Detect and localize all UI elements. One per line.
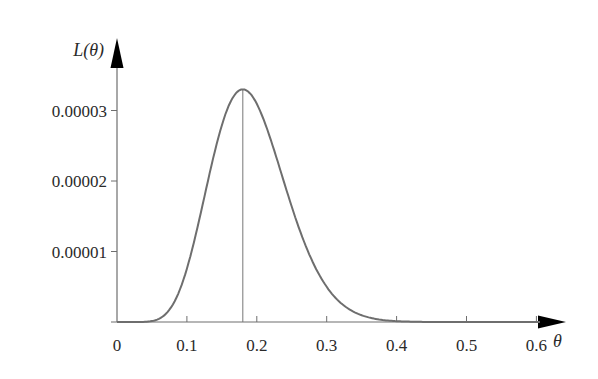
x-axis-title: θ	[553, 331, 562, 351]
y-axis-title: L(θ)	[72, 40, 104, 61]
y-tick-label: 0.00001	[52, 243, 107, 262]
x-tick-label: 0.1	[176, 336, 197, 355]
y-tick-label: 0.00003	[52, 102, 107, 121]
likelihood-curve	[117, 89, 540, 322]
x-tick-label: 0.4	[386, 336, 408, 355]
x-tick-label: 0.2	[246, 336, 267, 355]
x-axis-arrow-icon	[538, 316, 566, 329]
x-tick-label: 0.5	[456, 336, 477, 355]
x-tick-label: 0	[113, 336, 122, 355]
likelihood-chart: 00.10.20.30.40.50.6 0.000010.000020.0000…	[0, 0, 598, 379]
x-tick-label: 0.6	[526, 336, 547, 355]
y-ticks: 0.000010.000020.00003	[52, 102, 117, 262]
y-tick-label: 0.00002	[52, 172, 107, 191]
x-tick-label: 0.3	[316, 336, 337, 355]
y-axis-arrow-icon	[111, 38, 124, 68]
